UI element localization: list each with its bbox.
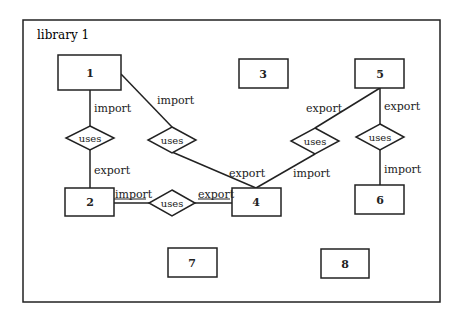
edge-label-2-r5: import — [115, 188, 153, 201]
relationship-label-r5: uses — [161, 198, 184, 209]
edge-label-r3-4: import — [293, 167, 331, 180]
edge-label-1-r2: import — [157, 94, 195, 107]
diagram-canvas: library 1 1 2 3 4 5 6 7 8 — [0, 0, 464, 324]
edge-label-r5-4: export — [198, 188, 235, 201]
relationship-label-r4: uses — [369, 132, 392, 143]
entity-label-1: 1 — [86, 67, 94, 80]
entity-label-5: 5 — [376, 68, 384, 81]
entity-label-6: 6 — [376, 194, 384, 207]
entity-label-3: 3 — [259, 68, 267, 81]
relationship-label-r3: uses — [304, 136, 327, 147]
relationship-label-r1: uses — [79, 133, 102, 144]
edges — [90, 74, 380, 203]
edge-label-r2-4: export — [229, 167, 266, 180]
entity-label-4: 4 — [252, 196, 260, 209]
entity-label-7: 7 — [188, 257, 196, 270]
edge-label-5-r4: export — [384, 100, 421, 113]
edge-label-5-r3: export — [306, 102, 343, 115]
edge-label-r1-2: export — [94, 164, 131, 177]
entity-label-2: 2 — [86, 196, 94, 209]
relationship-label-r2: uses — [161, 135, 184, 146]
edge-label-r4-6: import — [384, 163, 422, 176]
library-frame-label: library 1 — [37, 28, 89, 42]
edge-label-1-r1: import — [94, 102, 132, 115]
entity-label-8: 8 — [341, 258, 349, 271]
